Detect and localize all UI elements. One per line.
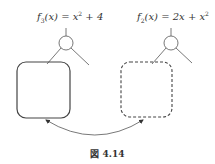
swap-arrow-arc [46, 120, 143, 135]
right-dashed-box [121, 62, 172, 117]
right-function-label: f2(x) = 2x + x2 [137, 10, 209, 24]
diagram-canvas [0, 0, 215, 164]
left-tree-node [47, 28, 89, 65]
left-function-label: f3(x) = x2 + 4 [37, 10, 103, 24]
left-solid-box [17, 62, 70, 118]
figure-caption: 図 4.14 [0, 147, 215, 160]
right-tree-node [152, 28, 192, 64]
